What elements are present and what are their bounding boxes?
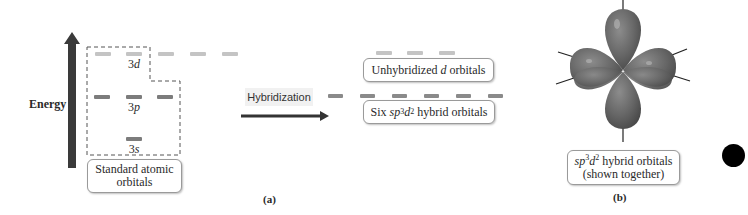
orbital-dash [439,51,455,55]
orbital-dash [126,52,142,56]
orbital-dash [456,94,471,98]
orbital-dash [94,95,110,99]
hybrid-orbitals-label: Six sp3d2 hybrid orbitals [363,100,495,124]
orbital-dash [157,95,173,99]
orbital-dash [126,95,142,99]
unhybridized-d-orbitals-label: Unhybridized d orbitals [363,58,494,82]
standard-atomic-orbitals-label: Standard atomic orbitals [87,159,182,193]
black-dot-marker [722,144,745,167]
sp3d2-orbital-model-icon [540,0,700,145]
caption-line-2: (shown together) [583,168,665,181]
text: Six [370,106,389,119]
orbital-dash [392,94,407,98]
text-italic: sp [390,106,401,119]
orbital-dash [222,52,238,56]
panel-b-caption: sp3d2 hybrid orbitals (shown together) [567,150,680,185]
orbital-dash [488,94,503,98]
orbital-dash [190,52,206,56]
hybridization-arrow-icon [240,110,330,122]
orbital-dash [360,94,375,98]
level-label-3s: 3s [119,142,149,157]
hybridization-label: Hybridization [245,88,313,106]
orbital-dash [126,137,142,141]
text: Unhybridized [372,64,441,77]
panel-b-label: (b) [613,191,626,203]
orbital-dash [95,52,111,56]
orbital-dash [158,52,174,56]
orbital-dash [328,94,343,98]
panel-a-label: (a) [263,193,276,205]
orbital-dash [424,94,439,98]
box-line-2: orbitals [117,176,153,189]
text: orbitals [446,64,485,77]
caption-line-1: sp3d2 hybrid orbitals [575,155,673,168]
level-label-3d: 3d [119,57,149,72]
orbital-dash [376,51,392,55]
text: hybrid orbitals [599,154,672,168]
level-label-3p: 3p [119,100,149,115]
orbital-dash [407,51,423,55]
text: hybrid orbitals [414,106,487,119]
text-italic: sp [575,154,586,168]
